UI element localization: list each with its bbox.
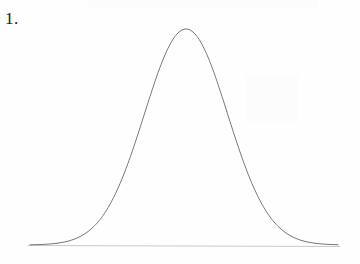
normal-distribution-curve <box>30 29 338 245</box>
figure-page: 1. <box>0 0 360 264</box>
bell-curve-svg <box>0 0 360 264</box>
baseline-axis <box>28 246 340 247</box>
bell-curve-plot <box>0 0 360 264</box>
